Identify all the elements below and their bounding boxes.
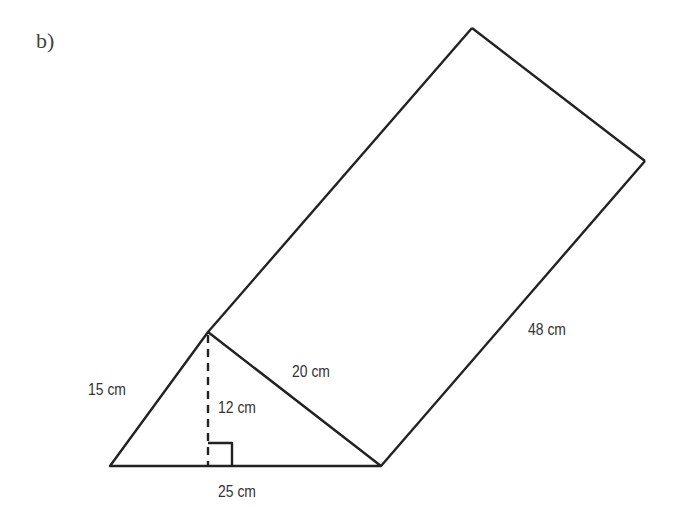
height-label: 12 cm <box>218 398 256 418</box>
back-right-edge <box>381 161 645 466</box>
left-side-label: 15 cm <box>88 380 126 400</box>
right-angle-marker <box>208 443 232 466</box>
top-edge <box>208 28 472 332</box>
length-label: 48 cm <box>528 320 566 340</box>
back-top-edge <box>472 28 645 161</box>
base-label: 25 cm <box>218 482 256 502</box>
right-side-label: 20 cm <box>292 362 330 382</box>
prism-diagram <box>0 0 676 527</box>
